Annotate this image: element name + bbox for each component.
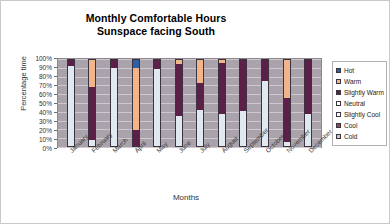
legend-item[interactable]: Slightly Cool: [336, 109, 384, 120]
bar-segment: [196, 83, 204, 110]
legend-item[interactable]: Cool: [336, 120, 384, 131]
legend-swatch-icon: [336, 123, 341, 128]
bar-segment: [218, 63, 226, 114]
chart-title-block: Monthly Comfortable Hours Sunspace facin…: [1, 12, 311, 37]
legend-item[interactable]: Warm: [336, 76, 384, 87]
chart-title: Monthly Comfortable Hours: [1, 12, 311, 25]
legend-swatch-icon: [336, 112, 341, 117]
bar-segment: [239, 59, 247, 111]
stacked-bar[interactable]: [132, 59, 140, 147]
bar-slot: [233, 59, 255, 147]
y-tick-label: 80%: [39, 73, 52, 80]
y-tick-label: 30%: [39, 118, 52, 125]
bar-segment: [88, 87, 96, 140]
bar-slot: [125, 59, 147, 147]
bar-segment: [218, 114, 226, 147]
stacked-bar[interactable]: [153, 59, 161, 147]
bar-segment: [261, 59, 269, 81]
y-tick-label: 60%: [39, 91, 52, 98]
legend-label: Slightly Cool: [344, 111, 380, 118]
y-axis-ticks: 0%10%20%30%40%50%60%70%80%90%100%: [23, 53, 54, 153]
y-tick-label: 10%: [39, 136, 52, 143]
chart-legend: HotWarmSlightly WarmNeutralSlightly Cool…: [332, 61, 387, 146]
stacked-bar[interactable]: [175, 59, 183, 147]
bar-segment: [67, 59, 75, 66]
y-tick-label: 40%: [39, 109, 52, 116]
bar-slot: [189, 59, 211, 147]
x-axis-ticks: JanuaryFebruaryMarchAprilMayJuneJulyAugu…: [57, 149, 322, 193]
bar-segment: [67, 66, 75, 147]
legend-label: Cool: [344, 122, 357, 129]
legend-label: Warm: [344, 78, 361, 85]
bar-segment: [175, 116, 183, 147]
bar-slot: [60, 59, 82, 147]
legend-swatch-icon: [336, 134, 341, 139]
chart-subtitle: Sunspace facing South: [1, 25, 311, 38]
stacked-bar[interactable]: [283, 59, 291, 147]
legend-label: Slightly Warm: [344, 89, 384, 96]
stacked-bar[interactable]: [239, 59, 247, 147]
bar-segment: [239, 111, 247, 147]
stacked-bar[interactable]: [88, 59, 96, 147]
bar-segment: [196, 110, 204, 147]
legend-label: Cold: [344, 133, 357, 140]
legend-item[interactable]: Cold: [336, 131, 384, 142]
legend-item[interactable]: Neutral: [336, 98, 384, 109]
bar-slot: [211, 59, 233, 147]
bar-segment: [304, 59, 312, 114]
stacked-bar[interactable]: [67, 59, 75, 147]
y-tick-label: 100%: [35, 55, 52, 62]
y-tick-label: 90%: [39, 64, 52, 71]
x-axis-title: Months: [56, 193, 316, 202]
y-tick-label: 70%: [39, 82, 52, 89]
bar-slot: [168, 59, 190, 147]
legend-item[interactable]: Hot: [336, 65, 384, 76]
bar-segment: [196, 59, 204, 83]
legend-swatch-icon: [336, 101, 341, 106]
stacked-bar[interactable]: [196, 59, 204, 147]
bar-segment: [132, 59, 140, 68]
y-tick-label: 0%: [43, 145, 52, 152]
legend-swatch-icon: [336, 68, 341, 73]
legend-item[interactable]: Slightly Warm: [336, 87, 384, 98]
bar-segment: [153, 59, 161, 69]
bar-segment: [110, 59, 118, 68]
bar-segment: [132, 68, 140, 130]
bar-slot: [146, 59, 168, 147]
bar-segment: [88, 59, 96, 87]
bar-segment: [153, 69, 161, 147]
legend-label: Neutral: [344, 100, 365, 107]
bar-segment: [175, 64, 183, 116]
legend-swatch-icon: [336, 90, 341, 95]
y-tick-label: 50%: [39, 100, 52, 107]
chart-figure: Monthly Comfortable Hours Sunspace facin…: [0, 0, 390, 224]
legend-label: Hot: [344, 67, 354, 74]
stacked-bar[interactable]: [218, 59, 226, 147]
bar-segment: [283, 59, 291, 98]
legend-swatch-icon: [336, 79, 341, 84]
y-tick-label: 20%: [39, 127, 52, 134]
